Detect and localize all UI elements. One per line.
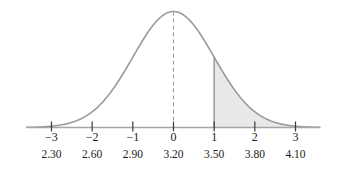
normal-distribution-figure: −3−2−10123 2.302.602.903.203.503.804.10 (0, 0, 345, 171)
shaded-tail-region (214, 57, 320, 127)
normal-curve-plot (0, 0, 345, 171)
